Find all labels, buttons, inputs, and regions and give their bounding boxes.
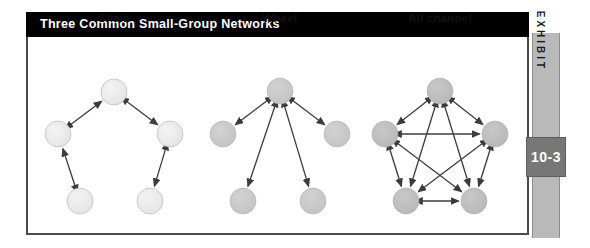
exhibit-tab-label: EXHIBIT (535, 11, 546, 71)
exhibit-figure: Three Common Small-Group Networks Chain … (0, 0, 590, 248)
network-heading-wheel: Wheel (263, 12, 298, 24)
network-heading-chain: Chain (98, 12, 131, 24)
exhibit-number-text: 10-3 (531, 149, 561, 165)
exhibit-title: Three Common Small-Group Networks (40, 17, 280, 31)
exhibit-tab[interactable]: EXHIBIT (532, 33, 560, 238)
exhibit-number-badge[interactable]: 10-3 (526, 137, 566, 177)
network-heading-all-channel: All channel (408, 12, 472, 24)
diagram-panel (28, 37, 527, 233)
